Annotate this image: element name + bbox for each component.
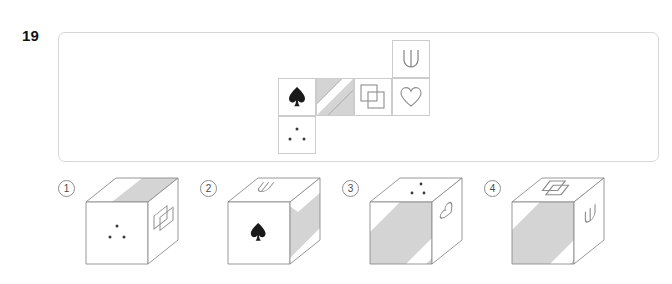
heart-icon: [393, 79, 429, 115]
net-cell-trident: [392, 40, 430, 78]
option-1-number: 1: [58, 180, 75, 197]
option-4[interactable]: 4: [482, 172, 632, 280]
option-3-number: 3: [342, 180, 359, 197]
net-cell-squares: [354, 78, 392, 116]
option-4-cube: [502, 172, 628, 278]
page-title: 19: [22, 27, 39, 44]
option-2-number: 2: [200, 180, 217, 197]
three-dots-icon: [279, 117, 315, 153]
trident-icon: [393, 41, 429, 77]
diagonal-band-icon: [317, 79, 353, 115]
option-2-cube: [218, 172, 344, 278]
overlapping-squares-icon: [355, 79, 391, 115]
option-2[interactable]: 2: [198, 172, 348, 280]
cube-net: [278, 40, 432, 156]
option-3-cube: [360, 172, 486, 278]
option-4-number: 4: [484, 180, 501, 197]
net-cell-heart: [392, 78, 430, 116]
options-row: 1: [0, 172, 672, 282]
net-cell-diagonal-band: [316, 78, 354, 116]
option-1-cube: [76, 172, 202, 278]
option-1[interactable]: 1: [56, 172, 206, 280]
net-cell-dots: [278, 116, 316, 154]
spade-icon: [279, 79, 315, 115]
net-cell-spade: [278, 78, 316, 116]
option-3[interactable]: 3: [340, 172, 490, 280]
